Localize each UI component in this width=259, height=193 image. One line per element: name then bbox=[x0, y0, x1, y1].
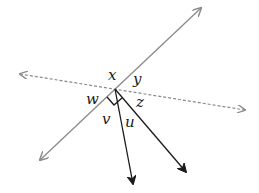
diagram-svg: x y w z v u bbox=[0, 0, 259, 193]
label-z: z bbox=[135, 93, 144, 111]
label-u: u bbox=[125, 113, 135, 131]
label-v: v bbox=[102, 110, 111, 128]
angle-diagram: x y w z v u bbox=[0, 0, 259, 193]
right-angle-mark bbox=[107, 97, 122, 105]
label-w: w bbox=[86, 90, 99, 108]
label-y: y bbox=[132, 70, 142, 88]
label-x: x bbox=[108, 66, 117, 84]
ray-u bbox=[115, 89, 133, 184]
solid-line bbox=[40, 8, 201, 160]
